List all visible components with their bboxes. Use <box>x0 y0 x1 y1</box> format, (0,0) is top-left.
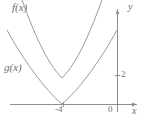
function-graph-figure: f(x) g(x) y x 2 -4 0 <box>0 0 142 121</box>
curve-g-of-x <box>7 30 117 104</box>
y-axis-label: y <box>128 2 132 12</box>
origin-label: 0 <box>108 105 113 114</box>
x-axis-label: x <box>132 106 136 116</box>
curve-label-g: g(x) <box>4 62 22 73</box>
curve-label-f: f(x) <box>12 2 27 13</box>
y-axis-arrow-icon <box>116 9 120 14</box>
x-tick-label-neg4: -4 <box>55 105 63 114</box>
curve-f-of-x <box>22 0 102 78</box>
y-tick-label-2: 2 <box>121 70 126 79</box>
